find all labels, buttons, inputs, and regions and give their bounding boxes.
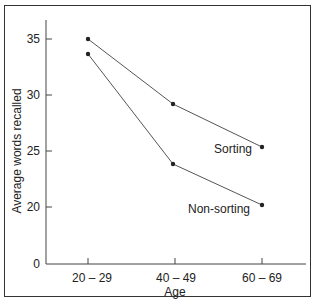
data-point [86, 52, 90, 56]
series-label-sorting: Sorting [214, 142, 252, 156]
line-chart: 35 30 25 20 0 20 – 29 40 – 49 60 – 69 Ag… [0, 0, 318, 302]
y-tick-label-0: 0 [33, 257, 40, 271]
y-tick-label-20: 20 [27, 200, 41, 214]
y-axis-title: Average words recalled [10, 88, 24, 213]
x-tick-label-40-49: 40 – 49 [156, 271, 196, 285]
y-tick-label-25: 25 [27, 144, 41, 158]
series-line-non-sorting [88, 54, 262, 205]
data-point [171, 102, 175, 106]
x-ticks [88, 258, 262, 264]
data-point [171, 162, 175, 166]
x-axis-title: Age [164, 285, 186, 299]
x-tick-label-60-69: 60 – 69 [242, 271, 282, 285]
data-point [86, 37, 90, 41]
y-tick-label-30: 30 [27, 88, 41, 102]
series-label-non-sorting: Non-sorting [188, 202, 250, 216]
data-point [260, 203, 264, 207]
x-tick-label-20-29: 20 – 29 [72, 271, 112, 285]
y-tick-label-35: 35 [27, 32, 41, 46]
data-point [260, 145, 264, 149]
series-line-sorting [88, 39, 262, 147]
y-ticks [46, 39, 52, 207]
